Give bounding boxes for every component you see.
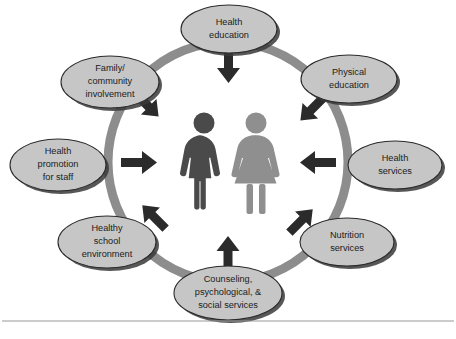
node-health-services[interactable]: Health services <box>348 141 445 192</box>
center-figures-group <box>180 113 280 215</box>
female-figure <box>231 113 279 215</box>
node-label-line-2: education <box>209 30 249 40</box>
node-label-line-2: school <box>94 236 121 246</box>
arrow-health-promotion-for-staff <box>121 151 157 174</box>
node-label-line-1: Nutrition <box>330 230 364 240</box>
male-figure <box>180 113 220 210</box>
node-label-line-1: Health <box>216 17 243 27</box>
node-healthy-school-environment[interactable]: Healthy school environment <box>58 216 159 271</box>
node-label-line-1: Physical <box>332 67 366 77</box>
node-family-community-involvement[interactable]: Family/ community involvement <box>61 56 162 111</box>
arrow-health-services <box>300 151 336 174</box>
node-label-line-2: services <box>378 166 412 176</box>
node-health-promotion-for-staff[interactable]: Health promotion for staff <box>10 139 109 194</box>
node-physical-education[interactable]: Physical education <box>301 55 400 106</box>
node-label-line-3: social services <box>198 300 258 310</box>
node-counseling-psychological-social-services[interactable]: Counseling, psychological, & social serv… <box>174 266 285 323</box>
diagram-canvas: Health education Physical education Heal… <box>0 0 456 339</box>
node-label-line-2: psychological, & <box>195 287 261 297</box>
oval-body <box>348 141 442 189</box>
node-label-line-1: Health <box>382 153 409 163</box>
node-label-line-2: promotion <box>38 159 79 169</box>
coordinated-school-health-diagram: Health education Physical education Heal… <box>0 0 456 339</box>
node-label-line-1: Health <box>45 146 72 156</box>
node-label-line-1: Counseling, <box>204 274 253 284</box>
node-label-line-3: involvement <box>85 89 134 99</box>
node-label-line-1: Healthy <box>91 223 123 233</box>
node-label-line-2: services <box>330 243 364 253</box>
node-label-line-1: Family/ <box>95 63 125 73</box>
oval-body <box>181 5 277 53</box>
oval-body <box>301 55 397 103</box>
node-label-line-2: community <box>88 76 133 86</box>
node-label-line-2: education <box>329 80 369 90</box>
node-label-line-3: environment <box>82 249 133 259</box>
node-nutrition-services[interactable]: Nutrition services <box>300 218 397 269</box>
node-label-line-3: for staff <box>43 172 74 182</box>
oval-body <box>300 218 394 266</box>
